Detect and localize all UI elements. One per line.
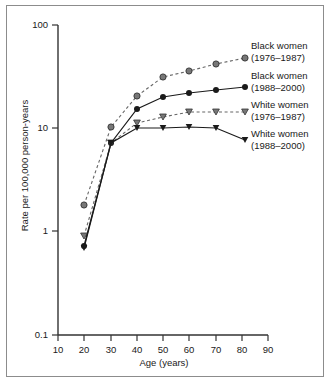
legend-label-line2: (1976–1987) bbox=[251, 111, 309, 123]
x-tick-label: 10 bbox=[46, 344, 70, 355]
y-axis-ticks bbox=[52, 25, 58, 335]
axis-lines bbox=[58, 25, 268, 335]
x-axis-label: Age (years) bbox=[58, 357, 270, 368]
legend-label-line1: Black women bbox=[251, 70, 308, 82]
legend-item-white-women-1976-1987: White women (1976–1987) bbox=[251, 99, 309, 122]
y-tick-label: 0.1 bbox=[18, 329, 48, 340]
x-tick-label: 70 bbox=[204, 344, 228, 355]
legend-label-line2: (1976–1987) bbox=[251, 52, 308, 64]
x-tick-label: 60 bbox=[177, 344, 201, 355]
y-axis-label: Rate per 100,000 person-years bbox=[19, 81, 30, 251]
series-white-women-1988-2000 bbox=[81, 124, 249, 251]
legend-label-line1: Black women bbox=[251, 40, 308, 52]
y-tick-label: 100 bbox=[18, 19, 48, 30]
x-tick-label: 20 bbox=[72, 344, 96, 355]
x-axis-ticks bbox=[58, 335, 268, 341]
x-tick-label: 40 bbox=[125, 344, 149, 355]
legend-label-line2: (1988–2000) bbox=[251, 82, 308, 94]
x-tick-label: 50 bbox=[151, 344, 175, 355]
legend-label-line1: White women bbox=[251, 99, 309, 111]
legend-label-line2: (1988–2000) bbox=[251, 140, 309, 152]
legend-label-line1: White women bbox=[251, 128, 309, 140]
series-black-women-1988-2000 bbox=[81, 84, 248, 249]
figure-panel: 100 10 1 0.1 10 20 30 40 50 60 70 80 90 … bbox=[0, 0, 332, 390]
legend-item-black-women-1976-1987: Black women (1976–1987) bbox=[251, 40, 308, 63]
legend-item-white-women-1988-2000: White women (1988–2000) bbox=[251, 128, 309, 151]
x-tick-label: 90 bbox=[256, 344, 280, 355]
x-tick-label: 30 bbox=[99, 344, 123, 355]
x-tick-label: 80 bbox=[230, 344, 254, 355]
legend-item-black-women-1988-2000: Black women (1988–2000) bbox=[251, 70, 308, 93]
